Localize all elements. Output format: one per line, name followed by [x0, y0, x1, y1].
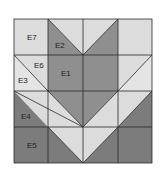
- label-e2: E2: [55, 41, 65, 50]
- label-e6: E6: [34, 61, 44, 70]
- quilt-block-diagram: E7 E2 E6 E1 E3 E4 E5: [0, 0, 162, 171]
- label-e5: E5: [27, 141, 37, 150]
- label-e4: E4: [21, 112, 31, 121]
- label-e1: E1: [61, 69, 71, 78]
- label-e7: E7: [27, 33, 37, 42]
- patch-row1-col4: [118, 19, 152, 55]
- patch-row4-col4: [118, 127, 152, 163]
- label-e3: E3: [18, 76, 28, 85]
